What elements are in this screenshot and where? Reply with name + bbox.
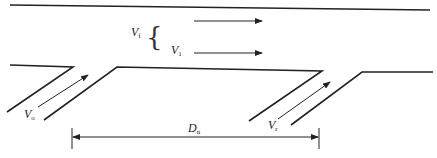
label-dn-sub: n bbox=[197, 128, 201, 136]
label-vf-sub: f bbox=[138, 32, 140, 40]
top-road-edge bbox=[10, 5, 430, 10]
bottom-road-edge bbox=[44, 67, 322, 121]
label-vf: Vf bbox=[131, 26, 141, 40]
road-geometry bbox=[0, 0, 437, 158]
vo-arrow bbox=[38, 75, 88, 107]
grouping-brace: { bbox=[146, 24, 163, 50]
label-dn: Dn bbox=[188, 122, 200, 136]
label-vr: Vr bbox=[268, 119, 278, 133]
label-dn-main: D bbox=[188, 121, 197, 135]
label-vo: Vo bbox=[24, 108, 35, 122]
weaving-diagram: Vf { V1 Vo Vr Dn bbox=[0, 0, 437, 158]
off-ramp-outer-edge bbox=[291, 72, 433, 125]
on-ramp-outer-edge bbox=[7, 65, 73, 112]
vr-arrow bbox=[278, 82, 330, 119]
label-v1-sub: 1 bbox=[178, 50, 182, 58]
label-vr-sub: r bbox=[275, 125, 277, 133]
label-vo-sub: o bbox=[31, 114, 35, 122]
label-v1: V1 bbox=[171, 44, 182, 58]
